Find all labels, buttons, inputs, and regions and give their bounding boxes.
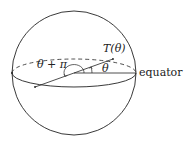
point-t [112, 58, 114, 60]
label-equator: equator [139, 66, 183, 79]
sphere-diagram: T(θ) θ θ + π equator [0, 0, 188, 142]
equator-front [12, 73, 136, 87]
label-point-t: T(θ) [103, 42, 126, 55]
label-theta: θ [102, 62, 109, 75]
point-left-equator [11, 72, 13, 74]
equator-back-dashed [12, 59, 136, 73]
point-opposite [34, 86, 36, 88]
label-theta-plus-pi: θ + π [37, 58, 68, 71]
